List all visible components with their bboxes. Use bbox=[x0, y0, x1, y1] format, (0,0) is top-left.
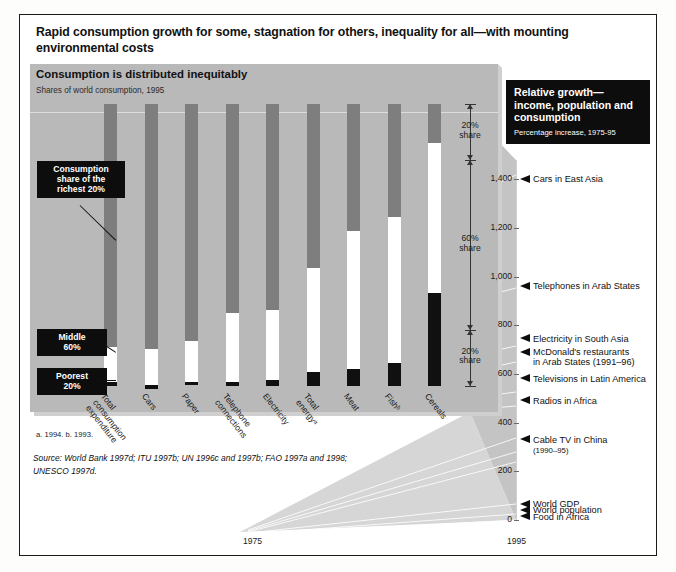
bar-8 bbox=[388, 104, 401, 386]
bar-9 bbox=[428, 104, 441, 386]
right-panel-title: Relative growth—income, population and c… bbox=[514, 86, 643, 124]
bar-segment-poor bbox=[428, 293, 441, 386]
bar-segment-mid bbox=[388, 217, 401, 364]
bar-segment-poor bbox=[388, 363, 401, 386]
bar-segment-poor bbox=[307, 372, 320, 386]
y-tick-label: 1,200 bbox=[478, 222, 512, 232]
bar-segment-rich bbox=[266, 104, 279, 310]
figure-headline: Rapid consumption growth for some, stagn… bbox=[36, 24, 621, 56]
bar-3 bbox=[185, 104, 198, 386]
bar-segment-mid bbox=[428, 143, 441, 292]
bar-segment-mid bbox=[145, 349, 158, 385]
bar-segment-rich bbox=[388, 104, 401, 217]
bar-segment-poor bbox=[226, 382, 239, 386]
bracket-label: 20%share bbox=[448, 347, 492, 366]
growth-marker-label: Telephones in Arab States bbox=[533, 281, 640, 292]
bar-segment-rich bbox=[307, 104, 320, 268]
bar-5 bbox=[266, 104, 279, 386]
y-tick-mark bbox=[514, 277, 519, 278]
bar-segment-rich bbox=[185, 104, 198, 341]
bar-segment-rich bbox=[428, 104, 441, 143]
callout-poorest: Poorest20% bbox=[37, 368, 107, 395]
bar-segment-rich bbox=[104, 104, 117, 347]
y-tick-label: 600 bbox=[478, 368, 512, 378]
y-tick-mark bbox=[514, 471, 519, 472]
bar-segment-rich bbox=[145, 104, 158, 349]
y-tick-label: 400 bbox=[478, 417, 512, 427]
bar-segment-mid bbox=[266, 310, 279, 380]
bar-2 bbox=[145, 104, 158, 386]
callout-middle: Middle60% bbox=[37, 329, 107, 356]
bar-segment-poor bbox=[266, 380, 279, 386]
bracket-label: 20%share bbox=[448, 121, 492, 140]
left-arrow-icon bbox=[520, 396, 530, 404]
bracket-arrow-up bbox=[467, 104, 473, 109]
growth-marker-label: Electricity in South Asia bbox=[533, 334, 629, 345]
bracket-cap bbox=[465, 386, 476, 387]
left-arrow-icon bbox=[520, 512, 530, 520]
growth-marker-label: Televisions in Latin America bbox=[533, 374, 646, 385]
growth-axis-line bbox=[516, 160, 517, 520]
bar-segment-poor bbox=[145, 385, 158, 389]
y-tick-label: 1,000 bbox=[478, 271, 512, 281]
y-tick-mark bbox=[514, 228, 519, 229]
left-arrow-icon bbox=[520, 374, 530, 382]
growth-marker-label: Cable TV in China bbox=[533, 435, 607, 446]
bar-segment-mid bbox=[185, 341, 198, 382]
bracket-arrow-down bbox=[467, 381, 473, 386]
y-tick-label: 800 bbox=[478, 319, 512, 329]
growth-marker-label: Cars in East Asia bbox=[533, 174, 603, 185]
x-axis-start-label: 1975 bbox=[243, 536, 262, 546]
y-tick-mark bbox=[514, 325, 519, 326]
bar-segment-poor bbox=[185, 382, 198, 385]
bar-segment-poor bbox=[347, 369, 360, 386]
y-tick-mark bbox=[514, 179, 519, 180]
callout-richest: Consumptionshare of therichest 20% bbox=[37, 161, 125, 198]
growth-marker-note: (1990–95) bbox=[533, 446, 569, 455]
bracket-arrow-up bbox=[467, 160, 473, 165]
y-tick-mark bbox=[514, 520, 519, 521]
bracket-arrow-up bbox=[467, 330, 473, 335]
left-panel-title: Consumption is distributed inequitably bbox=[36, 68, 247, 80]
bar-segment-rich bbox=[226, 104, 239, 313]
left-panel-subtitle: Shares of world consumption, 1995 bbox=[36, 86, 164, 95]
right-panel-subtitle: Percentage increase, 1975-95 bbox=[514, 128, 643, 137]
left-arrow-icon bbox=[520, 435, 530, 443]
left-arrow-icon bbox=[520, 282, 530, 290]
footnote: a. 1994. b. 1993. bbox=[36, 430, 93, 439]
figure-page: Rapid consumption growth for some, stagn… bbox=[0, 0, 676, 572]
left-arrow-icon bbox=[520, 334, 530, 342]
bar-segment-mid bbox=[307, 268, 320, 372]
bar-4 bbox=[226, 104, 239, 386]
bar-segment-rich bbox=[347, 104, 360, 231]
growth-marker-label: Food in Africa bbox=[533, 512, 589, 523]
y-tick-mark bbox=[514, 423, 519, 424]
bar-6 bbox=[307, 104, 320, 386]
bar-segment-mid bbox=[347, 231, 360, 369]
bracket-label: 60%share bbox=[448, 234, 492, 253]
left-arrow-icon bbox=[520, 175, 530, 183]
left-arrow-icon bbox=[520, 348, 530, 356]
y-tick-label: 1,400 bbox=[478, 173, 512, 183]
callout-poorest-leader bbox=[99, 380, 116, 381]
y-tick-label: 200 bbox=[478, 465, 512, 475]
source-note: Source: World Bank 1997d; ITU 1997b; UN … bbox=[33, 452, 363, 477]
y-tick-mark bbox=[514, 374, 519, 375]
growth-marker-label-line2: in Arab States (1991–96) bbox=[533, 357, 635, 368]
right-panel-header: Relative growth—income, population and c… bbox=[506, 80, 650, 144]
bar-7 bbox=[347, 104, 360, 386]
bar-segment-mid bbox=[226, 313, 239, 382]
x-axis-end-label: 1995 bbox=[507, 536, 526, 546]
y-tick-label: 0 bbox=[478, 514, 512, 524]
growth-marker-label: Radios in Africa bbox=[533, 396, 597, 407]
